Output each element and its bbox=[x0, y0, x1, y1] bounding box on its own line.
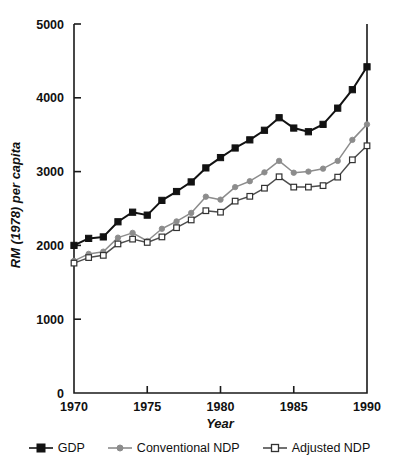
series-markers bbox=[71, 64, 370, 266]
y-axis-title: RM (1978) per capita bbox=[8, 142, 23, 268]
filled-circle-marker-icon bbox=[107, 442, 133, 454]
data-point-marker bbox=[262, 185, 268, 191]
data-point-marker bbox=[350, 137, 355, 142]
data-point-marker bbox=[115, 235, 120, 240]
data-point-marker bbox=[115, 219, 121, 225]
data-point-marker bbox=[276, 158, 281, 163]
legend-label-conventional-ndp: Conventional NDP bbox=[137, 441, 240, 455]
data-point-marker bbox=[203, 208, 209, 214]
data-point-marker bbox=[261, 127, 267, 133]
data-point-marker bbox=[188, 217, 194, 223]
chart-svg: 010002000300040005000 197019751980198519… bbox=[0, 0, 398, 440]
data-point-marker bbox=[159, 226, 164, 231]
data-point-marker bbox=[86, 255, 92, 261]
legend-item-adjusted-ndp[interactable]: Adjusted NDP bbox=[262, 441, 371, 455]
line-chart-figure: 010002000300040005000 197019751980198519… bbox=[0, 0, 398, 475]
data-point-marker bbox=[174, 219, 179, 224]
data-point-marker bbox=[203, 194, 208, 199]
legend-label-adjusted-ndp: Adjusted NDP bbox=[292, 441, 371, 455]
x-axis-tick-marks bbox=[147, 386, 294, 393]
y-tick-label: 5000 bbox=[36, 18, 64, 32]
data-point-marker bbox=[218, 197, 223, 202]
data-point-marker bbox=[364, 122, 369, 127]
data-point-marker bbox=[305, 129, 311, 135]
data-point-marker bbox=[349, 87, 355, 93]
data-point-marker bbox=[291, 125, 297, 131]
data-point-marker bbox=[144, 240, 150, 246]
data-point-marker bbox=[159, 234, 165, 240]
data-point-marker bbox=[130, 230, 135, 235]
data-point-marker bbox=[262, 170, 267, 175]
data-point-marker bbox=[101, 253, 107, 259]
data-point-marker bbox=[335, 158, 340, 163]
data-point-marker bbox=[189, 210, 194, 215]
chart-legend: GDP Conventional NDP Adjusted NDP bbox=[0, 436, 398, 460]
data-point-marker bbox=[335, 105, 341, 111]
data-point-marker bbox=[335, 174, 341, 180]
series-lines bbox=[74, 67, 367, 263]
data-point-marker bbox=[100, 234, 106, 240]
data-point-marker bbox=[306, 184, 312, 190]
legend-label-gdp: GDP bbox=[58, 441, 85, 455]
data-point-marker bbox=[276, 174, 282, 180]
data-point-marker bbox=[364, 64, 370, 70]
data-point-marker bbox=[188, 179, 194, 185]
data-point-marker bbox=[247, 137, 253, 143]
data-point-marker bbox=[276, 115, 282, 121]
data-point-marker bbox=[159, 197, 165, 203]
data-point-marker bbox=[173, 188, 179, 194]
data-point-marker bbox=[320, 183, 326, 189]
data-point-marker bbox=[174, 225, 180, 231]
x-tick-label: 1975 bbox=[133, 400, 161, 414]
data-point-marker bbox=[320, 166, 325, 171]
legend-item-conventional-ndp[interactable]: Conventional NDP bbox=[107, 441, 240, 455]
data-point-marker bbox=[291, 184, 297, 190]
data-point-marker bbox=[350, 157, 356, 163]
x-tick-label: 1985 bbox=[280, 400, 308, 414]
data-point-marker bbox=[86, 235, 92, 241]
y-tick-label: 1000 bbox=[36, 313, 64, 327]
x-tick-label: 1970 bbox=[60, 400, 88, 414]
y-axis-tick-marks bbox=[74, 24, 81, 319]
x-tick-label: 1990 bbox=[353, 400, 381, 414]
data-point-marker bbox=[306, 169, 311, 174]
legend-item-gdp[interactable]: GDP bbox=[28, 441, 85, 455]
data-point-marker bbox=[232, 184, 237, 189]
y-tick-label: 4000 bbox=[36, 91, 64, 105]
data-point-marker bbox=[71, 242, 77, 248]
data-point-marker bbox=[218, 209, 224, 215]
data-point-marker bbox=[71, 260, 77, 266]
x-tick-label: 1980 bbox=[207, 400, 235, 414]
x-axis-title: Year bbox=[206, 416, 235, 431]
axis-frame bbox=[74, 24, 367, 393]
y-axis-tick-labels: 010002000300040005000 bbox=[36, 18, 64, 401]
y-tick-label: 3000 bbox=[36, 165, 64, 179]
data-point-marker bbox=[291, 170, 296, 175]
plot-area: 010002000300040005000 197019751980198519… bbox=[0, 0, 398, 440]
x-axis-tick-labels: 19701975198019851990 bbox=[60, 400, 381, 414]
data-point-marker bbox=[247, 194, 253, 200]
data-point-marker bbox=[130, 209, 136, 215]
data-point-marker bbox=[203, 165, 209, 171]
open-square-marker-icon bbox=[262, 442, 288, 454]
data-point-marker bbox=[364, 143, 370, 149]
y-tick-label: 0 bbox=[57, 387, 64, 401]
cropped-caption-sliver bbox=[8, 466, 338, 475]
data-point-marker bbox=[232, 145, 238, 151]
data-point-marker bbox=[232, 198, 238, 204]
data-point-marker bbox=[247, 178, 252, 183]
data-point-marker bbox=[320, 121, 326, 127]
filled-square-marker-icon bbox=[28, 442, 54, 454]
data-point-marker bbox=[217, 154, 223, 160]
data-point-marker bbox=[130, 236, 136, 242]
data-point-marker bbox=[115, 241, 121, 247]
data-point-marker bbox=[144, 212, 150, 218]
y-tick-label: 2000 bbox=[36, 239, 64, 253]
